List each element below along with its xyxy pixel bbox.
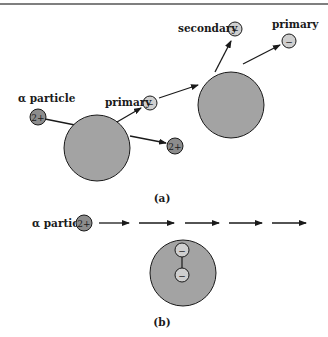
primary-right-electron-charge: − [285, 37, 293, 47]
scattered-alpha-charge: 2+ [168, 142, 181, 152]
panel-a: 2+ α particle − primary 2+ − secondary −… [18, 18, 319, 204]
alpha-charge-b: 2+ [77, 219, 90, 229]
electron-upper-charge: − [178, 246, 186, 256]
primary-right-label: primary [272, 18, 319, 30]
alpha-scatter-arrow [130, 136, 166, 143]
caption-a: (a) [154, 192, 171, 204]
electron-lower-charge: − [178, 271, 186, 281]
atom-right-nucleus [198, 72, 264, 138]
primary-to-atom-arrow [159, 85, 198, 98]
alpha-label: α particle [18, 92, 76, 104]
secondary-label: secondary [178, 22, 238, 34]
alpha-charge: 2+ [31, 113, 44, 123]
primary-electron-arrow [117, 108, 141, 122]
primary-exit-arrow [243, 45, 280, 64]
panel-b: α particle 2+ − − (b) [32, 215, 306, 328]
secondary-electron-arrow [215, 41, 231, 72]
caption-b: (b) [153, 316, 170, 328]
primary-left-label: primary [105, 96, 152, 108]
atom-left-nucleus [64, 115, 130, 181]
ionization-diagram: 2+ α particle − primary 2+ − secondary −… [0, 0, 328, 337]
